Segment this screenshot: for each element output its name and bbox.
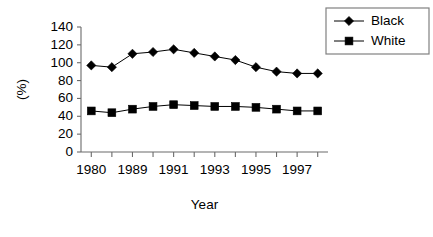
data-point-black bbox=[148, 47, 157, 56]
y-tick-label: 40 bbox=[58, 108, 73, 123]
line-chart: 0204060801001201401980198919911993199519… bbox=[0, 0, 433, 237]
y-tick-label: 120 bbox=[50, 37, 73, 52]
legend-label-white: White bbox=[371, 33, 406, 48]
data-point-white bbox=[252, 103, 260, 111]
data-point-white bbox=[273, 105, 281, 113]
data-point-black bbox=[210, 52, 219, 61]
chart-container: 0204060801001201401980198919911993199519… bbox=[0, 0, 433, 237]
data-point-white bbox=[170, 101, 178, 109]
data-point-white bbox=[149, 103, 157, 111]
data-point-white bbox=[87, 107, 95, 115]
data-point-black bbox=[313, 69, 322, 78]
y-tick-label: 100 bbox=[50, 55, 73, 70]
legend-label-black: Black bbox=[371, 13, 404, 28]
series-line-white bbox=[91, 105, 317, 113]
data-point-black bbox=[107, 63, 116, 72]
data-point-white bbox=[108, 109, 116, 117]
data-point-black bbox=[251, 63, 260, 72]
y-axis-title: (%) bbox=[14, 79, 29, 100]
y-tick-label: 0 bbox=[65, 144, 73, 159]
y-tick-label: 80 bbox=[58, 73, 73, 88]
y-tick-label: 20 bbox=[58, 126, 73, 141]
data-point-black bbox=[128, 49, 137, 58]
x-axis-title: Year bbox=[191, 197, 219, 212]
data-point-white bbox=[231, 103, 239, 111]
x-tick-label: 1989 bbox=[117, 162, 147, 177]
data-point-black bbox=[169, 45, 178, 54]
data-point-black bbox=[272, 67, 281, 76]
data-point-black bbox=[231, 55, 240, 64]
x-tick-label: 1993 bbox=[200, 162, 230, 177]
data-point-white bbox=[211, 103, 219, 111]
y-tick-label: 140 bbox=[50, 19, 73, 34]
x-tick-label: 1991 bbox=[159, 162, 189, 177]
data-point-white bbox=[293, 107, 301, 115]
data-point-black bbox=[87, 61, 96, 70]
x-tick-label: 1995 bbox=[241, 162, 271, 177]
legend-marker-square bbox=[345, 37, 353, 45]
series-line-black bbox=[91, 49, 317, 73]
data-point-white bbox=[190, 102, 198, 110]
data-point-black bbox=[190, 48, 199, 57]
data-point-white bbox=[314, 107, 322, 115]
y-tick-label: 60 bbox=[58, 90, 73, 105]
x-tick-label: 1980 bbox=[76, 162, 106, 177]
data-point-white bbox=[129, 105, 137, 113]
data-point-black bbox=[293, 69, 302, 78]
x-tick-label: 1997 bbox=[282, 162, 312, 177]
